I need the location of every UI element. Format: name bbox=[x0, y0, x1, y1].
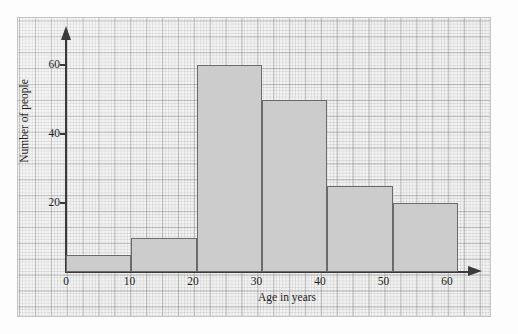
histogram-bar-20-30 bbox=[197, 65, 262, 272]
x-axis-arrow-icon bbox=[468, 266, 482, 276]
x-tick-label-20: 20 bbox=[178, 276, 208, 288]
figure-page: 20 40 60 0 10 20 30 40 50 60 bbox=[0, 0, 518, 334]
histogram-bar-10-20 bbox=[131, 238, 196, 273]
y-tick-label-20: 20 bbox=[34, 197, 60, 209]
histogram-bar-0-10 bbox=[66, 255, 131, 272]
histogram-bar-40-50 bbox=[327, 186, 392, 272]
x-tick-label-50: 50 bbox=[369, 276, 399, 288]
x-tick-label-0: 0 bbox=[51, 276, 81, 288]
histogram-chart: 20 40 60 0 10 20 30 40 50 60 bbox=[0, 0, 518, 334]
x-axis-title: Age in years bbox=[0, 291, 518, 303]
x-tick-label-60: 60 bbox=[432, 276, 462, 288]
histogram-bar-30-40 bbox=[262, 100, 327, 273]
y-tick-label-wrap-20: 20 bbox=[24, 197, 60, 209]
y-axis-arrow-icon bbox=[61, 26, 71, 40]
y-axis-title: Number of people bbox=[18, 61, 30, 181]
plot-area bbox=[66, 65, 458, 272]
y-tick-label-40: 40 bbox=[34, 128, 60, 140]
x-tick-label-40: 40 bbox=[305, 276, 335, 288]
x-tick-label-10: 10 bbox=[115, 276, 145, 288]
histogram-bar-50-60 bbox=[393, 203, 458, 272]
x-tick-label-30: 30 bbox=[242, 276, 272, 288]
y-tick-label-60: 60 bbox=[34, 59, 60, 71]
